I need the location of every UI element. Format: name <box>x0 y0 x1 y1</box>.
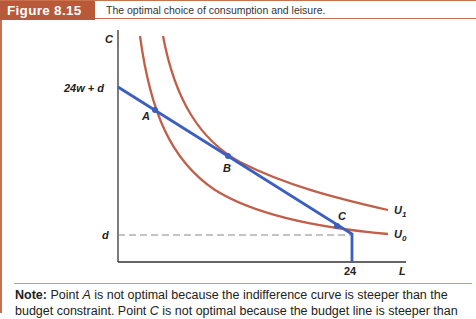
figure-header: Figure 8.15 The optimal choice of consum… <box>0 0 476 19</box>
figure-number-label: Figure 8.15 <box>0 1 95 20</box>
figure-title: The optimal choice of consumption and le… <box>106 1 325 20</box>
note-line-2: budget constraint. Point C is not optima… <box>15 303 470 319</box>
indifference-curve-u0 <box>140 36 388 234</box>
budget-line <box>118 87 352 262</box>
indifference-curve-u1 <box>163 36 388 210</box>
figure-note: Note: Point A is not optimal because the… <box>15 287 470 319</box>
point-c-marker <box>334 223 340 229</box>
point-c-label: C <box>338 210 347 222</box>
note-label: Note: <box>15 288 47 302</box>
note-line-1: Note: Point A is not optimal because the… <box>15 287 470 303</box>
y-tick-top: 24w + d <box>63 82 104 94</box>
point-a-marker <box>152 107 158 113</box>
point-b-label: B <box>223 162 231 174</box>
u1-label: U1 <box>394 204 407 219</box>
x-tick-24: 24 <box>344 265 357 277</box>
u0-label: U0 <box>394 228 407 243</box>
point-a-label: A <box>141 110 150 122</box>
x-axis-label: L <box>399 265 406 277</box>
y-tick-d: d <box>102 229 109 241</box>
chart: C 24w + d d 24 L A B C U1 U0 <box>0 19 476 281</box>
y-axis-label: C <box>105 33 114 45</box>
note-divider <box>14 283 472 284</box>
point-b-marker <box>225 153 231 159</box>
